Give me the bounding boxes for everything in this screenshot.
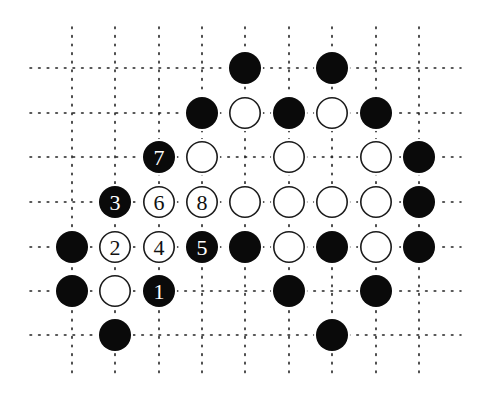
white-stone <box>358 184 394 220</box>
black-stone <box>401 229 437 265</box>
black-stone <box>314 50 350 86</box>
white-stone-move-4: 4 <box>141 229 177 265</box>
black-stone <box>401 184 437 220</box>
black-stone <box>314 317 350 353</box>
white-stone-move-8: 8 <box>184 184 220 220</box>
white-stone <box>358 139 394 175</box>
black-stone-move-7: 7 <box>141 139 177 175</box>
black-stone <box>314 229 350 265</box>
black-stone <box>184 95 220 131</box>
move-number: 2 <box>110 235 121 260</box>
move-number: 7 <box>154 145 165 170</box>
black-stone <box>271 95 307 131</box>
white-stone <box>227 184 263 220</box>
move-number: 5 <box>197 235 208 260</box>
white-stone <box>314 184 350 220</box>
black-stone <box>227 50 263 86</box>
move-number: 1 <box>154 279 165 304</box>
black-stone <box>358 273 394 309</box>
go-board: 73682451 <box>0 0 483 401</box>
white-stone <box>227 95 263 131</box>
black-stone <box>54 273 90 309</box>
white-stone <box>314 95 350 131</box>
move-number: 6 <box>154 190 165 215</box>
black-stone <box>358 95 394 131</box>
move-number: 3 <box>110 190 121 215</box>
black-stone <box>97 317 133 353</box>
move-number: 8 <box>197 190 208 215</box>
black-stone <box>271 273 307 309</box>
white-stone-move-2: 2 <box>97 229 133 265</box>
black-stone <box>227 229 263 265</box>
black-stone <box>401 139 437 175</box>
white-stone <box>358 229 394 265</box>
black-stone-move-5: 5 <box>184 229 220 265</box>
white-stone-move-6: 6 <box>141 184 177 220</box>
white-stone <box>271 184 307 220</box>
black-stone-move-3: 3 <box>97 184 133 220</box>
move-number: 4 <box>154 235 165 260</box>
black-stone-move-1: 1 <box>141 273 177 309</box>
white-stone <box>97 273 133 309</box>
white-stone <box>271 139 307 175</box>
stones-layer: 73682451 <box>54 50 437 353</box>
white-stone <box>184 139 220 175</box>
white-stone <box>271 229 307 265</box>
black-stone <box>54 229 90 265</box>
